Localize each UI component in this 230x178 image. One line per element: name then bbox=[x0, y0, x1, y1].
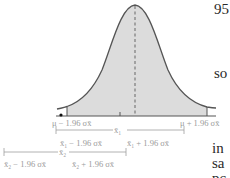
label-mu-minus: μ − 1.96 σx̄ bbox=[52, 119, 91, 128]
side-text-bottom-3: pc bbox=[212, 171, 226, 178]
label-xbar1: x̄₁ bbox=[114, 126, 121, 135]
side-text-top: 95 bbox=[214, 2, 229, 17]
side-text-bottom-2: sa bbox=[212, 156, 225, 171]
side-text-middle: so bbox=[214, 66, 227, 81]
label-xbar2: x̄₂ bbox=[59, 148, 66, 157]
label-mu-plus: μ + 1.96 σx̄ bbox=[180, 119, 219, 128]
label-xbar2-plus: x̄₂ + 1.96 σx̄ bbox=[72, 160, 114, 169]
normal-distribution-diagram bbox=[0, 0, 230, 178]
shaded-region bbox=[67, 5, 207, 116]
label-xbar1-plus: x̄₁ + 1.96 σx̄ bbox=[127, 139, 169, 148]
label-xbar2-minus: x̄₂ − 1.96 σx̄ bbox=[4, 160, 46, 169]
side-text-bottom-1: in bbox=[212, 141, 224, 156]
label-xbar1-minus: x̄₁ − 1.96 σx̄ bbox=[60, 139, 102, 148]
axis-dot bbox=[59, 113, 62, 116]
